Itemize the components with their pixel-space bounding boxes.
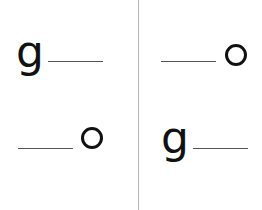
letter-g: g — [161, 116, 189, 160]
letter-g: g — [16, 30, 44, 74]
blank-line — [161, 61, 216, 62]
blank-line — [193, 148, 248, 149]
blank-line — [48, 61, 103, 62]
center-divider — [138, 0, 139, 210]
blank-line — [18, 148, 73, 149]
letter-o — [81, 127, 103, 149]
letter-o — [225, 44, 247, 66]
